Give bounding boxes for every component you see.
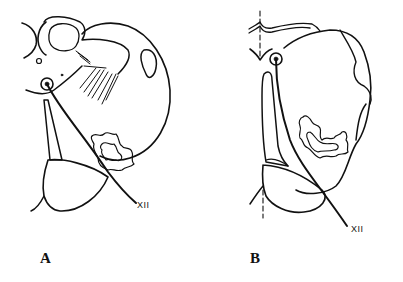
panel-a-oval xyxy=(141,50,156,78)
panel-a-right-arc xyxy=(38,22,46,55)
panel-a-pyramid xyxy=(43,160,108,211)
diagram-canvas xyxy=(0,0,403,282)
panel-b-lateral-boundary xyxy=(340,30,371,104)
panel-a-upper-lobe-inner xyxy=(49,24,79,51)
panel-a-letter: A xyxy=(40,250,51,267)
panel-a-nerve-label: XII xyxy=(137,200,150,210)
panel-a-small-circle xyxy=(37,59,42,64)
panel-b-main-outline xyxy=(284,30,371,193)
panel-b-top-contour-inner xyxy=(249,26,310,33)
panel-a-upper-lobe-outer xyxy=(44,17,129,74)
panel-a-olive-outer xyxy=(91,133,134,171)
panel-b-nerve-xii-line xyxy=(276,59,347,226)
panel-b-pyramid-tail xyxy=(250,186,263,204)
panel-b-pyramid xyxy=(262,165,325,212)
panel-a-wedge xyxy=(44,100,62,160)
panel-a-nerve-xii-line xyxy=(47,84,136,203)
panel-a-dot xyxy=(61,74,63,76)
panel-b-nerve-label: XII xyxy=(351,224,364,234)
panel-a-drawing xyxy=(22,17,170,211)
panel-b-floor-notch xyxy=(250,49,272,60)
panel-a-main-outline xyxy=(82,23,170,160)
panel-b-letter: B xyxy=(250,250,260,267)
panel-a-left-contour xyxy=(26,66,82,94)
panel-a-left-arc xyxy=(22,23,36,58)
panel-b-olive-inner xyxy=(307,132,338,152)
panel-a-pyramid-tail xyxy=(31,196,44,211)
panel-b-drawing xyxy=(249,11,371,226)
panel-a-fiber-hatching xyxy=(76,51,118,104)
